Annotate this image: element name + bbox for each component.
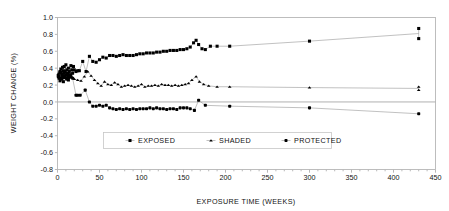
data-point (172, 49, 175, 52)
data-point (132, 107, 135, 110)
data-point (95, 61, 98, 64)
data-point (95, 105, 98, 108)
y-tick-label: 1.0 (43, 13, 53, 22)
y-tick-label: -0.8 (41, 165, 53, 174)
chart-figure: -0.8-0.6-0.4-0.20.00.20.40.60.81.0 05010… (0, 0, 449, 211)
x-tick-label: 50 (96, 173, 104, 182)
data-point (165, 108, 168, 111)
data-point (189, 107, 192, 110)
data-point (152, 51, 155, 54)
legend-label-shaded: SHADED (219, 136, 251, 145)
data-point (179, 106, 182, 109)
data-point (417, 27, 420, 30)
data-point (185, 47, 188, 50)
y-tick-label: 0.2 (43, 81, 53, 90)
data-point (105, 104, 108, 107)
data-point (78, 69, 81, 72)
x-tick-label: 150 (178, 173, 190, 182)
data-point (121, 53, 124, 56)
data-point (98, 104, 101, 107)
data-point (135, 53, 138, 56)
x-axis-title: EXPOSURE TIME (WEEKS) (196, 197, 295, 206)
data-point (115, 108, 118, 111)
weight-change-scatter-chart: -0.8-0.6-0.4-0.20.00.20.40.60.81.0 05010… (0, 0, 449, 211)
data-point (182, 106, 185, 109)
data-point (142, 52, 145, 55)
data-point (125, 54, 128, 57)
data-point (81, 60, 84, 63)
data-point (135, 108, 138, 111)
data-point (197, 43, 200, 46)
data-point (72, 65, 75, 68)
data-point (108, 106, 111, 109)
data-point (308, 40, 311, 43)
data-point (145, 107, 148, 110)
x-tick-label: 400 (388, 173, 400, 182)
data-point (155, 106, 158, 109)
data-point (138, 107, 141, 110)
data-point (162, 107, 165, 110)
data-point (128, 108, 131, 111)
data-point (108, 54, 111, 57)
data-point (62, 80, 65, 83)
data-point (132, 54, 135, 57)
y-tick-label: 0.4 (43, 64, 53, 73)
data-point (84, 89, 87, 92)
data-point (417, 112, 420, 115)
data-point (172, 107, 175, 110)
data-point (125, 107, 128, 110)
data-point (88, 100, 91, 103)
x-tick-label: 350 (346, 173, 358, 182)
data-point (158, 107, 161, 110)
data-point (148, 51, 151, 54)
data-point (152, 107, 155, 110)
data-point (169, 49, 172, 52)
data-point (169, 107, 172, 110)
data-point (197, 99, 200, 102)
y-tick-label: 0.8 (43, 30, 53, 39)
data-point (79, 94, 82, 97)
x-tick-label: 0 (56, 173, 60, 182)
data-point (209, 45, 212, 48)
data-point (64, 63, 67, 66)
data-point (142, 107, 145, 110)
data-point (118, 54, 121, 57)
data-point (185, 106, 188, 109)
data-point (200, 47, 203, 50)
data-point (101, 105, 104, 108)
chart-legend: EXPOSED SHADED PROTECTED (104, 133, 342, 149)
data-point (148, 106, 151, 109)
data-point (228, 105, 231, 108)
y-tick-label: -0.4 (41, 131, 53, 140)
y-tick-label: -0.6 (41, 148, 53, 157)
legend-label-protected: PROTECTED (294, 136, 341, 145)
data-point (193, 109, 196, 112)
data-point (417, 37, 420, 40)
y-tick-label: -0.2 (41, 114, 53, 123)
legend-label-exposed: EXPOSED (138, 136, 175, 145)
data-point (204, 104, 207, 107)
data-point (195, 39, 198, 42)
data-point (308, 106, 311, 109)
data-point (216, 45, 219, 48)
data-point (121, 108, 124, 111)
y-tick-label: 0.6 (43, 47, 53, 56)
data-point (111, 54, 114, 57)
data-point (204, 48, 207, 51)
data-point (105, 57, 108, 60)
data-point (115, 55, 118, 58)
data-point (91, 60, 94, 63)
data-point (162, 50, 165, 53)
data-point (91, 105, 94, 108)
data-point (155, 51, 158, 54)
data-point (71, 77, 74, 80)
y-axis-title: WEIGHT CHANGE (%) (9, 53, 18, 134)
data-point (118, 107, 121, 110)
data-point (182, 48, 185, 51)
y-tick-label: 0.0 (43, 98, 53, 107)
data-point (145, 51, 148, 54)
data-point (165, 50, 168, 53)
data-point (158, 51, 161, 54)
data-point (175, 108, 178, 111)
data-point (88, 55, 91, 58)
